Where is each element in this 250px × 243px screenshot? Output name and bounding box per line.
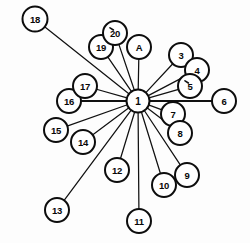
- graph-edge-1-11: [138, 112, 139, 211]
- node-circle-5[interactable]: [178, 74, 202, 98]
- node-circle-17[interactable]: [73, 74, 97, 98]
- graph-node-8[interactable]: 8: [168, 121, 192, 145]
- graph-edge-1-7: [148, 105, 163, 111]
- node-circle-11[interactable]: [127, 209, 151, 233]
- graph-node-17[interactable]: 17: [73, 74, 97, 98]
- graph-node-11[interactable]: 11: [127, 209, 151, 233]
- graph-node-20[interactable]: 20: [103, 21, 127, 45]
- graph-edge-1-3: [145, 63, 173, 93]
- graph-node-18[interactable]: 18: [23, 7, 48, 32]
- node-circle-10[interactable]: [152, 173, 176, 197]
- node-layer: 34567891011121314151617181920A1: [23, 7, 237, 234]
- graph-node-9[interactable]: 9: [175, 163, 199, 187]
- graph-edge-1-17: [96, 89, 128, 98]
- graph-node-A[interactable]: A: [127, 35, 151, 59]
- node-circle-1[interactable]: [127, 90, 150, 113]
- graph-node-1[interactable]: 1: [127, 90, 150, 113]
- node-circle-14[interactable]: [71, 130, 95, 154]
- graph-svg: 34567891011121314151617181920A1: [0, 0, 250, 243]
- node-circle-20[interactable]: [103, 21, 127, 45]
- graph-node-12[interactable]: 12: [105, 158, 129, 182]
- node-circle-13[interactable]: [45, 198, 69, 222]
- graph-diagram-canvas: 34567891011121314151617181920A1: [0, 0, 250, 243]
- graph-node-13[interactable]: 13: [45, 198, 69, 222]
- node-circle-15[interactable]: [44, 118, 68, 142]
- graph-node-6[interactable]: 6: [212, 89, 236, 113]
- node-circle-18[interactable]: [23, 7, 48, 32]
- graph-edge-1-14: [92, 107, 130, 135]
- graph-node-14[interactable]: 14: [71, 130, 95, 154]
- node-circle-12[interactable]: [105, 158, 129, 182]
- graph-node-10[interactable]: 10: [152, 173, 176, 197]
- graph-edge-1-12: [120, 111, 135, 159]
- node-circle-8[interactable]: [168, 121, 192, 145]
- graph-node-5[interactable]: 5: [178, 74, 202, 98]
- node-circle-6[interactable]: [212, 89, 236, 113]
- graph-node-15[interactable]: 15: [44, 118, 68, 142]
- node-circle-A[interactable]: [127, 35, 151, 59]
- node-circle-9[interactable]: [175, 163, 199, 187]
- graph-edge-1-A: [138, 58, 139, 91]
